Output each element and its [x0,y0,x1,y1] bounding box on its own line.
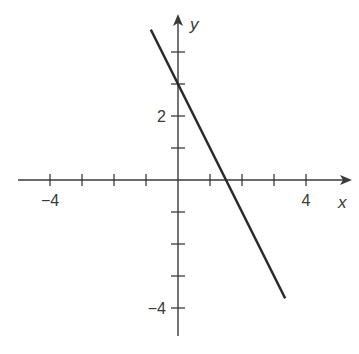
line-series [151,30,285,299]
y-tick-label: 2 [157,108,166,125]
y-axis-label: y [189,15,200,34]
x-tick-label: −4 [41,192,59,209]
x-axis-label: x [337,193,347,212]
chart: −44 2−4 x y [0,0,359,354]
x-tick-label: 4 [302,192,311,209]
x-axis: −44 [18,174,352,209]
data-series [151,30,285,299]
y-tick-label: −4 [148,300,166,317]
axis-labels: x y [189,15,347,212]
